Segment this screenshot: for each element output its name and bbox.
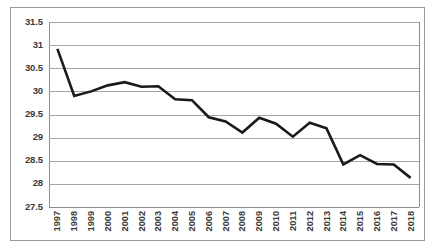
chart-border: 31.53130.53029.52928.52827.5 19971998199… xyxy=(10,7,425,241)
x-axis-tick-label: 1997 xyxy=(52,211,62,231)
x-axis-tick-label: 2007 xyxy=(221,211,231,231)
x-axis-tick-label: 2003 xyxy=(153,211,163,231)
x-axis-tick-label: 1999 xyxy=(86,211,96,231)
y-axis-tick-label: 28 xyxy=(33,177,43,188)
x-axis-tick-label: 2002 xyxy=(137,211,147,231)
y-axis-tick-label: 29.5 xyxy=(25,108,43,119)
x-axis-tick-label: 2005 xyxy=(187,211,197,231)
x-axis-tick-label: 2004 xyxy=(170,211,180,231)
y-axis-tick-label: 31 xyxy=(33,39,43,50)
series-polyline xyxy=(57,49,410,178)
x-axis-tick-label: 2001 xyxy=(120,211,130,231)
x-axis-tick-label: 2000 xyxy=(103,211,113,231)
x-axis-tick-label: 2014 xyxy=(338,211,348,231)
y-axis-tick-label: 28.5 xyxy=(25,154,43,165)
y-axis-tick-label: 30.5 xyxy=(25,62,43,73)
y-axis-tick-label: 31.5 xyxy=(25,16,43,27)
x-axis-tick-label: 2018 xyxy=(406,211,416,231)
y-axis-tick-label: 29 xyxy=(33,131,43,142)
x-axis-tick-label: 2016 xyxy=(372,211,382,231)
x-axis-tick-label: 2015 xyxy=(355,211,365,231)
data-series-line xyxy=(49,22,419,208)
x-axis-tick-label: 2009 xyxy=(254,211,264,231)
x-axis-tick-label: 2012 xyxy=(305,211,315,231)
x-axis-tick-label: 2006 xyxy=(204,211,214,231)
x-axis-tick-label: 2013 xyxy=(322,211,332,231)
x-axis-tick-label: 1998 xyxy=(69,211,79,231)
y-axis-tick-label: 27.5 xyxy=(25,201,43,212)
chart-canvas: 31.53130.53029.52928.52827.5 19971998199… xyxy=(11,8,426,242)
x-axis-tick-label: 2010 xyxy=(271,211,281,231)
x-axis-tick-label: 2008 xyxy=(237,211,247,231)
y-axis-tick-label: 30 xyxy=(33,85,43,96)
x-axis-tick-label: 2017 xyxy=(389,211,399,231)
x-axis-tick-label: 2011 xyxy=(288,211,298,231)
